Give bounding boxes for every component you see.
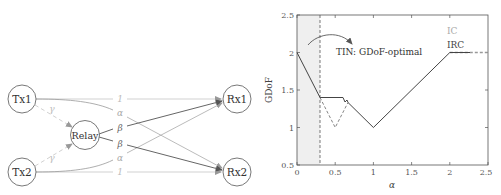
node-tx1: Tx1 <box>8 85 36 113</box>
y-tick-label: 2 <box>289 49 294 58</box>
edge-tx1-rx1: 1 <box>36 94 221 104</box>
edge-label-relay-rx2: β <box>116 139 122 149</box>
y-axis-label: GDoF <box>264 77 274 103</box>
edge-label-tx1-rx2: α <box>117 108 123 118</box>
edge-tx1-rx2: α <box>36 99 222 168</box>
node-label-rx2: Rx2 <box>227 166 248 178</box>
node-label-tx1: Tx1 <box>12 93 32 105</box>
x-tick-label: 0.5 <box>329 168 342 177</box>
x-axis <box>297 15 488 165</box>
y-tick-label: 1.5 <box>281 86 294 95</box>
x-tick-label: 2 <box>447 168 452 177</box>
legend-ic: IC <box>447 26 458 36</box>
node-rx2: Rx2 <box>223 158 251 186</box>
figure: 1 1 α α β β <box>0 0 501 195</box>
node-label-tx2: Tx2 <box>12 166 32 178</box>
x-axis-label: α <box>389 180 395 190</box>
edge-tx2-rx2: 1 <box>36 167 221 177</box>
ic-series-dip <box>320 98 348 128</box>
node-rx1: Rx1 <box>223 85 251 113</box>
node-label-rx1: Rx1 <box>227 93 248 105</box>
node-relay: Relay <box>71 121 100 150</box>
edge-label-tx2-rx2: 1 <box>117 167 123 177</box>
edge-tx2-rx1: α <box>36 103 222 172</box>
y-tick-label: 0.5 <box>281 161 294 170</box>
edge-tx2-relay: γ <box>35 144 72 166</box>
edge-label-tx1-rx1: 1 <box>117 94 123 104</box>
node-label-relay: Relay <box>72 130 99 141</box>
y-tick-label: 1 <box>289 124 294 133</box>
edge-label-tx2-rx1: α <box>117 153 123 163</box>
legend-irc: IRC <box>447 40 464 50</box>
edge-tx1-relay: γ <box>35 104 72 127</box>
x-tick-label: 1 <box>371 168 376 177</box>
y-axis <box>297 15 488 165</box>
edge-label-relay-rx1: β <box>116 123 122 133</box>
gdof-chart: 0 0.5 1 1.5 2 2.5 α 0.5 1 1.5 2 2.5 GDoF <box>264 11 492 190</box>
x-tick-label: 0 <box>294 168 299 177</box>
edge-label-tx1-relay: γ <box>49 104 55 114</box>
x-tick-label: 2.5 <box>480 168 493 177</box>
edge-label-tx2-relay: γ <box>49 153 55 163</box>
network-diagram: 1 1 α α β β <box>8 85 251 186</box>
tin-annotation: TIN: GDoF-optimal <box>336 47 422 57</box>
y-tick-label: 2.5 <box>281 11 294 20</box>
plot-frame <box>297 15 488 165</box>
node-tx2: Tx2 <box>8 158 36 186</box>
x-tick-label: 1.5 <box>405 168 418 177</box>
irc-series-line-corrected <box>297 53 470 128</box>
